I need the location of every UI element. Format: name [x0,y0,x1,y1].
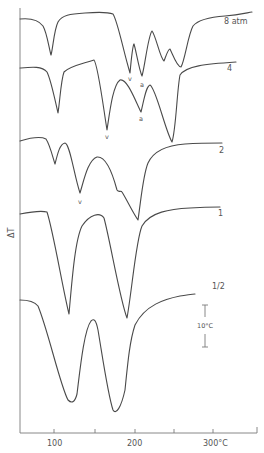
curve-8-atm [20,12,252,76]
curve-half [20,294,195,412]
curve-label-1: 1 [218,209,223,218]
y-axis-label: ΔT [7,228,16,238]
mark-v-4: v [105,133,109,141]
curve-1 [20,207,220,318]
scale-bar-label: 10°C [197,322,214,330]
mark-a-4: a [139,115,143,123]
curve-label-half: 1/2 [212,282,225,291]
mark-v-2: v [78,198,82,206]
x-tick-label-300: 300°C [203,439,228,448]
mark-v-8atm: v [128,75,132,83]
curve-label-8-atm: 8 atm [224,17,248,26]
x-tick-label-100: 100 [47,439,62,448]
x-tick-label-200: 200 [127,439,142,448]
curve-4 [20,60,236,142]
curve-label-4: 4 [227,64,232,73]
curve-label-2: 2 [219,146,224,155]
dta-chart: 100 200 300°C ΔT v a 8 atm v a 4 v 2 1 1… [0,0,264,453]
mark-a-8atm: a [140,81,144,89]
x-ticks [54,427,257,433]
